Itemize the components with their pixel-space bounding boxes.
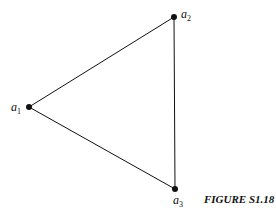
vertex-a3 <box>172 186 178 192</box>
figure-caption: FIGURE S1.18 <box>203 193 275 205</box>
vertex-a1 <box>26 104 32 110</box>
vertex-label-a1: a1 <box>11 100 21 116</box>
triangle-graph-diagram: a1 a2 a3 FIGURE S1.18 <box>0 0 276 214</box>
edge-a1-a3 <box>29 107 175 189</box>
vertex-label-a3: a3 <box>173 193 183 209</box>
edge-a2-a3 <box>174 17 175 189</box>
vertex-label-a2: a2 <box>181 7 191 23</box>
vertex-a2 <box>171 14 177 20</box>
edge-a1-a2 <box>29 17 174 107</box>
